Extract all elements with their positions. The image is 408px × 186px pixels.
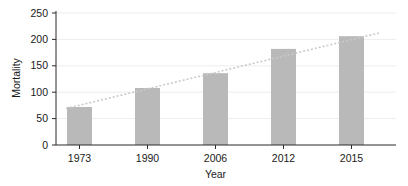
y-tick-label-200: 200 [30, 33, 48, 45]
y-tick-label-50: 50 [36, 112, 48, 124]
x-tick-labels: 1973 1990 2006 2012 2015 [68, 152, 364, 164]
y-tick-label-250: 250 [30, 7, 48, 19]
x-tick-label-1990: 1990 [136, 152, 160, 164]
bar-2015 [339, 36, 364, 145]
x-tick-label-1973: 1973 [68, 152, 92, 164]
bars-group [67, 36, 364, 145]
y-tick-label-0: 0 [42, 139, 48, 151]
y-tick-labels: 0 50 100 150 200 250 [30, 7, 48, 151]
bar-1990 [135, 88, 160, 145]
mortality-bar-chart: 0 50 100 150 200 250 1973 1990 2006 2012… [0, 0, 408, 186]
x-tick-label-2006: 2006 [204, 152, 228, 164]
bar-1973 [67, 107, 92, 145]
bar-2012 [271, 49, 296, 145]
y-axis-title: Mortality [10, 57, 22, 97]
x-tick-label-2012: 2012 [272, 152, 296, 164]
chart-canvas: 0 50 100 150 200 250 1973 1990 2006 2012… [0, 0, 408, 186]
y-tick-label-100: 100 [30, 86, 48, 98]
x-tick-label-2015: 2015 [340, 152, 364, 164]
x-tick-marks [80, 145, 352, 149]
y-tick-marks [52, 13, 56, 145]
y-tick-label-150: 150 [30, 59, 48, 71]
x-axis-title: Year [205, 168, 227, 180]
bar-2006 [203, 73, 228, 145]
